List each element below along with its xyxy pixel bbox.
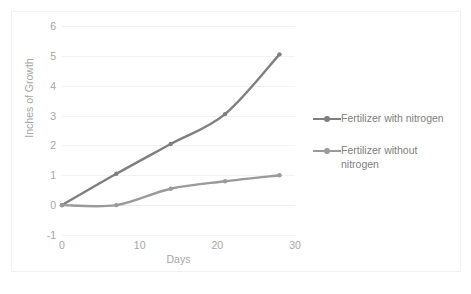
data-point-marker [277, 52, 281, 56]
y-axis-tick-label: 0 [34, 200, 56, 211]
data-point-marker [169, 142, 173, 146]
data-point-marker [114, 172, 118, 176]
legend-marker-icon [313, 113, 341, 125]
series-line [62, 54, 279, 205]
data-point-marker [114, 203, 118, 207]
series-2 [60, 173, 282, 207]
legend-entry[interactable]: Fertilizer with nitrogen [313, 111, 453, 125]
legend-marker-icon [313, 145, 341, 157]
series-1 [60, 52, 282, 207]
x-axis-title: Days [62, 253, 295, 265]
gridline [62, 235, 295, 236]
data-point-marker [223, 112, 227, 116]
x-axis-tick-label: 30 [289, 240, 301, 251]
y-axis-tick-label: 6 [34, 21, 56, 32]
data-point-marker [169, 187, 173, 191]
x-axis-tick-label: 20 [211, 240, 223, 251]
y-axis-tick-label: 3 [34, 110, 56, 121]
data-point-marker [60, 203, 64, 207]
y-axis-tick-label: 1 [34, 170, 56, 181]
legend-label: Fertilizer with nitrogen [341, 111, 444, 125]
legend-label: Fertilizer without nitrogen [341, 143, 449, 171]
data-point-marker [277, 173, 281, 177]
bottom-caption-strip [12, 285, 312, 294]
y-axis-tick-label: 5 [34, 51, 56, 62]
legend-entry[interactable]: Fertilizer without nitrogen [313, 143, 453, 171]
x-axis-tick-label: 10 [134, 240, 146, 251]
growth-line-chart: -10123456 0102030 Inches of Growth Days … [0, 0, 471, 294]
y-axis-title: Inches of Growth [23, 43, 35, 153]
x-axis-tick-label: 0 [59, 240, 65, 251]
y-axis-tick-label: 4 [34, 80, 56, 91]
data-point-marker [223, 179, 227, 183]
series-plot [62, 26, 295, 235]
y-axis-tick-label: -1 [34, 230, 56, 241]
chart-legend: Fertilizer with nitrogenFertilizer witho… [313, 111, 453, 189]
y-axis-tick-label: 2 [34, 140, 56, 151]
